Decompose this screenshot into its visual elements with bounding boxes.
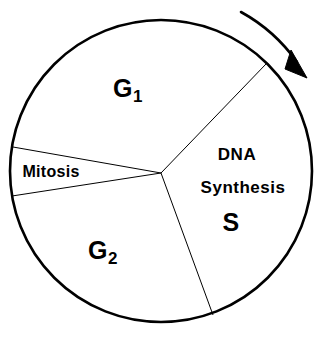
cell-cycle-diagram: G1 DNA Synthesis S G2 Mitosis (0, 0, 329, 341)
wedge-label-g2-sub: 2 (108, 249, 118, 268)
wedge-label-g1-sub: 1 (133, 87, 143, 106)
wedge-label-s-synthesis: Synthesis (201, 178, 286, 197)
clockwise-arrow-head (285, 50, 307, 78)
cell-cycle-canvas: G1 DNA Synthesis S G2 Mitosis (0, 0, 329, 341)
wedge-label-s-letter: S (222, 208, 239, 236)
wedge-label-mitosis: Mitosis (22, 163, 79, 180)
wedge-label-g2-main: G (88, 236, 108, 264)
wedge-label-g1-main: G (113, 74, 133, 102)
wedge-label-s-dna: DNA (218, 145, 256, 164)
